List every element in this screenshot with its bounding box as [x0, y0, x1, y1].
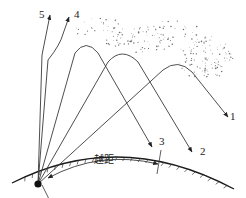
ionosphere-dot — [127, 40, 128, 41]
ionosphere-dot — [202, 61, 203, 62]
ground-hatch-mark — [161, 162, 164, 166]
ray-label-4: 4 — [74, 8, 80, 20]
ionosphere-dot — [117, 42, 118, 43]
ionosphere-dot — [133, 42, 134, 43]
ionosphere-dot — [130, 41, 132, 43]
ionosphere-dot — [132, 35, 133, 36]
ionosphere-dot — [161, 34, 162, 35]
ionosphere-dot — [119, 43, 120, 44]
ionosphere-dot — [113, 36, 114, 37]
ionosphere-dot — [195, 41, 196, 42]
ground-hatch-mark — [224, 185, 228, 188]
ionosphere-dot — [227, 58, 228, 59]
ionosphere-dot — [206, 59, 207, 60]
ionosphere-dot — [94, 30, 95, 31]
ionosphere-dot — [106, 43, 107, 44]
ionosphere-dot — [163, 34, 164, 35]
ionosphere-dot — [194, 59, 195, 60]
ionosphere-dot — [196, 42, 197, 43]
ionosphere-dot — [205, 67, 206, 68]
ionosphere-dot — [158, 46, 159, 47]
ionosphere-dot — [164, 26, 165, 27]
ionosphere-dot — [180, 49, 181, 50]
ionosphere-dot — [100, 18, 101, 19]
ionosphere-dot — [217, 67, 218, 68]
ionosphere-dot — [144, 40, 145, 41]
ionosphere-dot — [92, 18, 93, 19]
ionosphere-dot — [103, 24, 104, 25]
ionosphere-dot — [156, 49, 157, 50]
ionosphere-dot — [154, 35, 155, 36]
ionosphere-dot — [191, 49, 192, 50]
ionosphere-dot — [160, 42, 161, 43]
ionosphere-dot — [148, 29, 149, 30]
ionosphere-dot — [132, 37, 133, 38]
ionosphere-dot — [204, 75, 205, 76]
ionosphere-dot — [122, 34, 123, 35]
ionosphere-dot — [172, 43, 174, 45]
ionosphere-dot — [115, 27, 116, 28]
ionosphere-dot — [120, 37, 121, 38]
ionosphere-dot — [119, 32, 121, 34]
ionosphere-dot — [132, 40, 133, 41]
ionosphere-dot — [184, 54, 186, 56]
ionosphere-dot — [190, 53, 191, 54]
ionosphere-dot — [117, 34, 118, 35]
ionosphere-dot — [217, 66, 218, 67]
ionosphere-dot — [185, 34, 186, 35]
ionosphere-dot — [228, 51, 229, 52]
ionosphere-dot — [184, 36, 185, 37]
ionosphere-dot — [215, 68, 216, 69]
ionosphere-dot — [201, 41, 203, 43]
ionosphere-dot — [198, 41, 199, 42]
ionosphere-dot — [218, 61, 219, 62]
ionosphere-dot — [232, 58, 233, 59]
ionosphere-dot — [204, 71, 205, 72]
ionosphere-dot — [194, 45, 195, 46]
ionosphere-dot — [225, 52, 226, 53]
ionosphere-dot — [164, 48, 165, 49]
ionosphere-dot — [163, 28, 164, 29]
ionosphere-dot — [210, 49, 211, 50]
ionosphere-dot — [224, 57, 225, 58]
ionosphere-dot — [170, 26, 171, 27]
ionosphere-dot — [138, 31, 140, 33]
ionosphere-dot — [221, 66, 222, 67]
ionosphere-dot — [197, 74, 198, 75]
ionosphere-dot — [191, 38, 192, 39]
ground-hatch-mark — [208, 178, 212, 181]
ionosphere-dot — [204, 41, 205, 42]
ionosphere-dot — [206, 57, 207, 58]
ionosphere-dot — [189, 64, 190, 65]
ionosphere-dot — [204, 68, 206, 70]
ionosphere-dot — [184, 70, 185, 71]
ionosphere-dot — [177, 20, 178, 21]
ionosphere-dot — [216, 63, 217, 64]
ionosphere-dot — [205, 41, 206, 42]
ionosphere-dot — [183, 29, 184, 30]
ionosphere-dot — [193, 48, 194, 49]
ground-hatch-mark — [40, 171, 41, 175]
ionosphere-dot — [204, 37, 205, 38]
ionosphere-dot — [114, 27, 116, 29]
ionosphere-dot — [168, 21, 169, 22]
ionosphere-dot — [153, 26, 154, 27]
ionosphere-dot — [159, 37, 160, 38]
ionosphere-dot — [185, 28, 186, 29]
ionosphere-dot — [206, 76, 207, 77]
ionosphere-dot — [181, 68, 182, 69]
ionosphere-dot — [107, 30, 108, 31]
ionosphere-dot — [216, 59, 217, 60]
ionosphere-dot — [211, 36, 212, 37]
ionosphere-dot — [142, 47, 143, 48]
ionosphere-dot — [203, 43, 204, 44]
ionosphere-dot — [120, 38, 121, 39]
ionosphere-dot — [105, 19, 106, 20]
ionosphere-dot — [196, 53, 197, 54]
ionosphere-dot — [155, 29, 156, 30]
ionosphere-dot — [205, 48, 206, 49]
ionosphere-dot — [196, 26, 198, 28]
ionosphere-dot — [170, 40, 171, 41]
ionosphere-dot — [226, 53, 227, 54]
ground-hatch-mark — [192, 172, 195, 175]
